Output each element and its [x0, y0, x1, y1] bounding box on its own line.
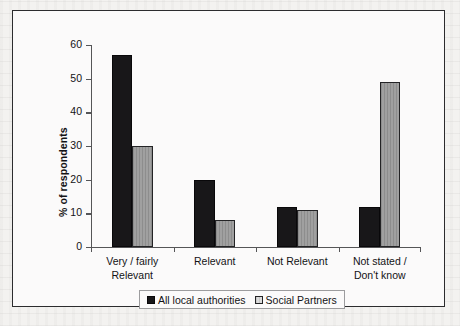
- y-axis-title: % of respondents: [57, 127, 69, 217]
- x-axis-tick: [339, 247, 340, 252]
- legend-swatch-icon: [147, 296, 155, 304]
- bar: [380, 82, 401, 247]
- y-axis-tick: 40: [86, 112, 91, 113]
- bar: [297, 210, 318, 247]
- plot-area: 0102030405060 Very / fairly RelevantRele…: [91, 45, 421, 247]
- y-axis-tick-label: 10: [70, 206, 82, 219]
- x-axis-category-label: Not Relevant: [256, 255, 339, 269]
- x-axis-category-label: Relevant: [174, 255, 257, 269]
- y-axis-line: [91, 45, 92, 247]
- legend-entry: All local authorities: [147, 294, 246, 306]
- y-axis-tick: 30: [86, 146, 91, 147]
- bar: [277, 207, 298, 247]
- x-axis-tick: [256, 247, 257, 252]
- x-axis-category-label: Very / fairly Relevant: [91, 255, 174, 282]
- y-axis-tick-label: 50: [70, 72, 82, 85]
- x-axis-tick: [91, 247, 92, 252]
- bar: [132, 146, 153, 247]
- legend-entry: Social Partners: [255, 294, 337, 306]
- y-axis-tick-label: 40: [70, 105, 82, 118]
- bar: [112, 55, 133, 247]
- x-axis-tick: [420, 247, 421, 252]
- chart-figure-frame: % of respondents 0102030405060 Very / fa…: [12, 10, 445, 307]
- bar: [215, 220, 236, 247]
- legend-label: Social Partners: [266, 294, 337, 306]
- y-axis-tick: 50: [86, 79, 91, 80]
- x-axis-tick: [174, 247, 175, 252]
- y-axis-tick: 60: [86, 45, 91, 46]
- y-axis-tick-label: 60: [70, 38, 82, 51]
- y-axis-tick: 10: [86, 213, 91, 214]
- legend-label: All local authorities: [158, 294, 246, 306]
- legend-swatch-icon: [255, 296, 263, 304]
- y-axis-tick-label: 30: [70, 139, 82, 152]
- y-axis-tick-label: 0: [76, 240, 82, 253]
- bar: [194, 180, 215, 247]
- bar: [359, 207, 380, 247]
- chart-legend: All local authoritiesSocial Partners: [139, 290, 345, 309]
- y-axis-tick: 20: [86, 180, 91, 181]
- x-axis-category-label: Not stated / Don't know: [339, 255, 422, 282]
- y-axis-tick-label: 20: [70, 173, 82, 186]
